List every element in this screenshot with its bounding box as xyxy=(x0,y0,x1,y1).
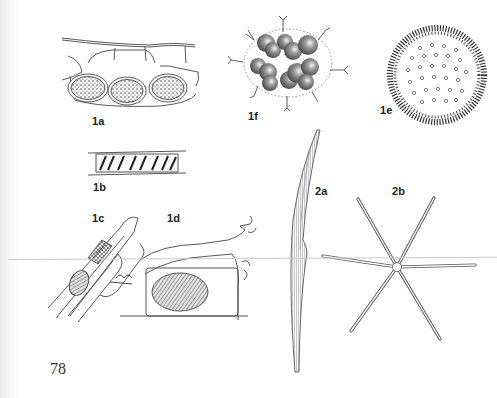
figure-label-1e: 1e xyxy=(380,104,393,116)
page-number: 78 xyxy=(50,360,66,378)
figure-label-1c: 1c xyxy=(92,212,105,224)
figure-label-2a: 2a xyxy=(315,185,328,197)
figure-label-1f: 1f xyxy=(248,110,258,122)
figure-1d-drawing xyxy=(120,216,256,320)
figure-label-2b: 2b xyxy=(392,185,405,197)
figure-1f-drawing xyxy=(228,16,348,111)
figure-1c-drawing xyxy=(48,217,144,322)
book-page: 1a 1b 1c 1d 1e 1f 2a 2b 78 xyxy=(0,0,497,398)
figure-label-1b: 1b xyxy=(93,181,106,193)
figure-label-1a: 1a xyxy=(92,115,105,127)
figure-2a-drawing xyxy=(291,130,320,372)
figure-1e-drawing xyxy=(390,28,484,122)
figure-label-1d: 1d xyxy=(167,212,180,224)
illustration-plate xyxy=(0,0,497,398)
figure-1a-drawing xyxy=(62,38,199,106)
figure-1b-drawing xyxy=(88,151,186,175)
